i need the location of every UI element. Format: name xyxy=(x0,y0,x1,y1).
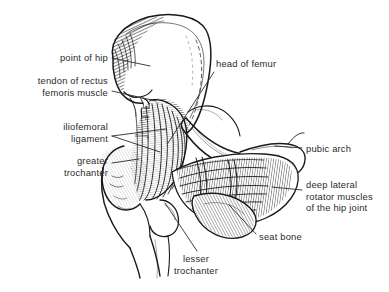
label-seat-bone: seat bone xyxy=(259,231,329,243)
label-iliofemoral-ligament: iliofemoral ligament xyxy=(18,121,108,144)
label-lesser-trochanter: lesser trochanter xyxy=(160,253,232,276)
label-deep-lateral-rotator-muscles: deep lateral rotator muscles of the hip … xyxy=(306,179,389,214)
label-greater-trochanter: greater trochanter xyxy=(18,155,108,178)
label-tendon-of-rectus-femoris-muscle: tendon of rectus femoris muscle xyxy=(8,75,108,98)
label-point-of-hip: point of hip xyxy=(14,52,108,64)
label-pubic-arch: pubic arch xyxy=(306,143,386,155)
label-head-of-femur: head of femur xyxy=(216,58,308,70)
